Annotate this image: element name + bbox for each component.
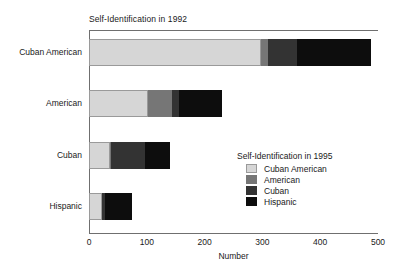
bar-segment <box>145 142 170 169</box>
x-tick-label: 300 <box>245 237 279 247</box>
bar-segment <box>89 90 148 117</box>
legend-item: American <box>237 174 332 185</box>
plot-top-rule <box>89 30 378 31</box>
bar-segment <box>111 142 145 169</box>
bar-segment <box>89 193 102 220</box>
bar-segment <box>297 39 371 66</box>
category-label: American <box>0 98 82 108</box>
legend-title: Self-Identification in 1995 <box>237 151 332 161</box>
legend-swatch <box>246 175 257 184</box>
bar-row <box>89 90 378 117</box>
bar-segment <box>172 90 179 117</box>
x-tick-label: 400 <box>303 237 337 247</box>
category-label: Cuban American <box>0 47 82 57</box>
category-label: Hispanic <box>0 201 82 211</box>
legend-items: Cuban AmericanAmericanCubanHispanic <box>237 163 332 207</box>
stacked-bar-chart-figure: Self-Identification in 1992 Cuban Americ… <box>0 0 404 278</box>
chart-legend: Self-Identification in 1995 Cuban Americ… <box>237 151 332 207</box>
bar-segment <box>105 193 132 220</box>
bar-row <box>89 193 378 220</box>
legend-label: Cuban American <box>264 164 327 174</box>
legend-swatch <box>246 186 257 195</box>
x-tick-label: 500 <box>361 237 395 247</box>
legend-swatch <box>246 164 257 173</box>
legend-item: Cuban <box>237 185 332 196</box>
category-label: Cuban <box>0 150 82 160</box>
x-tick-label: 0 <box>72 237 106 247</box>
legend-label: American <box>264 175 300 185</box>
bar-segment <box>89 39 261 66</box>
x-tick-label: 100 <box>130 237 164 247</box>
bar-segment <box>179 90 222 117</box>
bar-row <box>89 39 378 66</box>
bar-segment <box>261 39 268 66</box>
bar-row <box>89 142 378 169</box>
x-axis-line <box>89 233 378 234</box>
x-axis-title: Number <box>89 251 378 261</box>
legend-label: Hispanic <box>264 197 297 207</box>
bar-segment <box>148 90 172 117</box>
legend-label: Cuban <box>264 186 289 196</box>
bar-segment <box>89 142 110 169</box>
legend-item: Hispanic <box>237 196 332 207</box>
chart-title: Self-Identification in 1992 <box>89 14 187 24</box>
legend-item: Cuban American <box>237 163 332 174</box>
x-tick-label: 200 <box>188 237 222 247</box>
bar-segment <box>268 39 297 66</box>
legend-swatch <box>246 197 257 206</box>
